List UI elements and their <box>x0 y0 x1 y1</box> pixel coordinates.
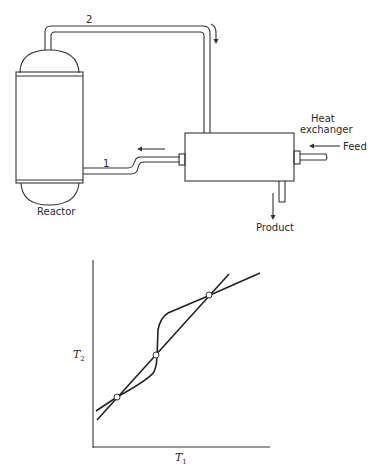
stream-2-label: 2 <box>86 14 92 25</box>
s-curve <box>96 273 260 411</box>
graph: T2 T1 <box>73 260 270 466</box>
heat-exchanger-label-line2: exchanger <box>300 124 354 135</box>
feed-arrow-left-icon <box>309 144 340 149</box>
heat-exchanger <box>185 133 294 181</box>
steady-state-point-low <box>114 394 120 400</box>
steady-state-point-high <box>206 292 212 298</box>
product-arrow-down-icon <box>271 193 276 220</box>
feed-label: Feed <box>343 141 367 152</box>
y-axis-label: T2 <box>73 348 85 363</box>
stream-1-label: 1 <box>103 158 109 169</box>
reactor-vessel <box>16 50 83 205</box>
process-diagram: 2 1 Reactor Heat exchanger Feed Product … <box>0 0 379 467</box>
product-pipe <box>279 181 285 202</box>
pipe-stream-2 <box>45 26 210 133</box>
flow-arrow-down-icon <box>211 24 219 44</box>
feed-pipe <box>294 151 327 164</box>
x-axis-label: T1 <box>175 451 187 466</box>
reactor-label: Reactor <box>37 206 76 217</box>
flow-arrow-left-icon <box>137 147 165 152</box>
steady-state-point-middle <box>153 352 159 358</box>
product-label: Product <box>256 222 294 233</box>
pipe-stream-1 <box>83 154 185 174</box>
heat-exchanger-label-line1: Heat <box>311 113 335 124</box>
